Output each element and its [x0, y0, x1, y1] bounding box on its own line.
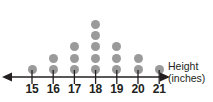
axis-tick-label-17: 17 [64, 82, 84, 96]
axis-title: Height (inches) [168, 60, 213, 84]
data-dot [91, 31, 100, 40]
data-dot [91, 42, 100, 51]
arrow-left-icon [2, 72, 12, 81]
data-dot [134, 54, 143, 63]
axis-tick-label-16: 16 [43, 82, 63, 96]
data-dot [91, 20, 100, 29]
data-dot [112, 54, 121, 63]
dot-plot-figure: 15161718192021 Height (inches) [0, 0, 213, 102]
axis-tick-labels: 15161718192021 [0, 82, 160, 100]
axis-tick-label-20: 20 [128, 82, 148, 96]
axis-tick-label-15: 15 [22, 82, 42, 96]
data-dot [112, 42, 121, 51]
data-dot [49, 54, 58, 63]
dot-plot-plot-area [0, 0, 160, 74]
axis-title-line-1: Height [168, 60, 213, 72]
axis-tick-label-18: 18 [86, 82, 106, 96]
axis-tick-label-19: 19 [107, 82, 127, 96]
data-dot [91, 54, 100, 63]
data-dot [70, 42, 79, 51]
axis-tick-label-21: 21 [149, 82, 169, 96]
axis-title-line-2: (inches) [168, 72, 213, 84]
data-dot [70, 54, 79, 63]
